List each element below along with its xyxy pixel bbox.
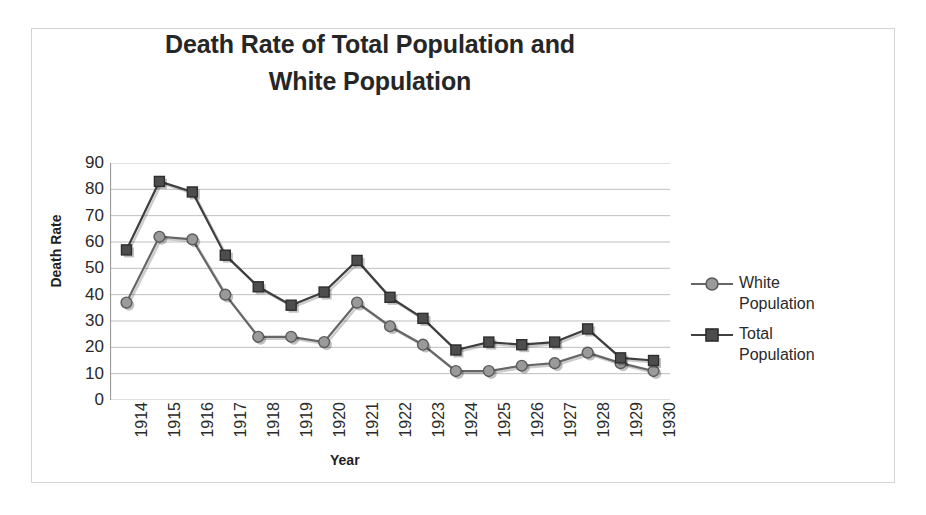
x-tick-label: 1927 — [562, 402, 580, 464]
legend-label-total-population: Total Population — [739, 323, 815, 365]
y-tick-label: 10 — [64, 365, 104, 382]
chart-screenshot: Death Rate of Total Population and White… — [0, 0, 926, 515]
y-tick-label: 50 — [64, 259, 104, 276]
data-point[interactable] — [319, 337, 330, 348]
y-tick-label: 20 — [64, 338, 104, 355]
legend-label-line-2: Population — [739, 344, 815, 365]
legend-marker-circle-icon — [690, 273, 734, 295]
series-line-shadow — [128, 183, 655, 362]
data-point[interactable] — [450, 366, 461, 377]
chart-title-line-1: Death Rate of Total Population and — [60, 26, 680, 63]
data-point[interactable] — [352, 297, 363, 308]
y-tick-label: 0 — [64, 391, 104, 408]
x-tick-label: 1930 — [661, 402, 679, 464]
data-point[interactable] — [286, 300, 296, 310]
data-point[interactable] — [616, 353, 626, 363]
data-point[interactable] — [483, 366, 494, 377]
chart-title-line-2: White Population — [60, 63, 680, 100]
legend-label-white-population: White Population — [739, 272, 815, 314]
data-point[interactable] — [549, 358, 560, 369]
x-tick-label: 1924 — [463, 402, 481, 464]
data-point[interactable] — [187, 234, 198, 245]
data-point[interactable] — [352, 255, 362, 265]
legend-entry-white-population[interactable]: White Population — [690, 272, 865, 314]
legend-label-line-2: Population — [739, 293, 815, 314]
x-tick-label: 1919 — [298, 402, 316, 464]
x-tick-label: 1916 — [199, 402, 217, 464]
data-point[interactable] — [385, 321, 396, 332]
data-point[interactable] — [451, 345, 461, 355]
y-axis-tick-labels: 9080706050403020100 — [58, 0, 104, 515]
data-point[interactable] — [418, 339, 429, 350]
x-tick-label: 1917 — [232, 402, 250, 464]
y-tick-label: 60 — [64, 233, 104, 250]
data-point[interactable] — [516, 360, 527, 371]
x-tick-label: 1921 — [364, 402, 382, 464]
legend-label-line-1: Total — [739, 323, 815, 344]
data-point[interactable] — [583, 324, 593, 334]
data-point[interactable] — [286, 331, 297, 342]
x-axis-tick-labels: 1914191519161917191819191920192119221923… — [110, 406, 670, 476]
y-tick-label: 90 — [64, 154, 104, 171]
data-point[interactable] — [121, 245, 131, 255]
y-tick-label: 70 — [64, 207, 104, 224]
data-point[interactable] — [319, 287, 329, 297]
plot-area — [110, 163, 670, 400]
x-tick-label: 1923 — [430, 402, 448, 464]
data-point[interactable] — [220, 250, 230, 260]
data-point[interactable] — [154, 231, 165, 242]
data-point[interactable] — [220, 289, 231, 300]
data-point[interactable] — [649, 356, 659, 366]
data-point[interactable] — [517, 340, 527, 350]
data-point[interactable] — [121, 297, 132, 308]
x-tick-label: 1914 — [133, 402, 151, 464]
chart-plot-svg — [110, 163, 670, 400]
legend-marker-square-icon — [690, 324, 734, 346]
y-tick-label: 40 — [64, 286, 104, 303]
x-tick-label: 1925 — [496, 402, 514, 464]
data-point[interactable] — [253, 282, 263, 292]
data-point[interactable] — [154, 176, 164, 186]
y-tick-label: 30 — [64, 312, 104, 329]
data-point[interactable] — [484, 337, 494, 347]
data-point[interactable] — [550, 337, 560, 347]
x-tick-label: 1922 — [397, 402, 415, 464]
series-line-shadow — [128, 239, 655, 373]
chart-legend: White Population Total Population — [690, 272, 865, 374]
x-tick-label: 1915 — [166, 402, 184, 464]
y-tick-label: 80 — [64, 180, 104, 197]
legend-label-line-1: White — [739, 272, 815, 293]
data-point[interactable] — [187, 187, 197, 197]
x-tick-label: 1928 — [595, 402, 613, 464]
data-point[interactable] — [418, 313, 428, 323]
series-line-total-population — [126, 181, 653, 360]
data-point[interactable] — [385, 292, 395, 302]
data-point[interactable] — [582, 347, 593, 358]
x-tick-label: 1929 — [628, 402, 646, 464]
legend-entry-total-population[interactable]: Total Population — [690, 323, 865, 365]
x-axis-label: Year — [330, 452, 360, 468]
chart-title: Death Rate of Total Population and White… — [60, 26, 680, 100]
x-tick-label: 1926 — [529, 402, 547, 464]
data-point[interactable] — [253, 331, 264, 342]
x-tick-label: 1918 — [265, 402, 283, 464]
